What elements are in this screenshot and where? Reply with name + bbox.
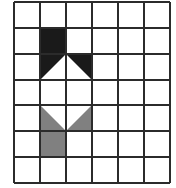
grid-figure (0, 0, 176, 188)
pattern-canvas (0, 0, 176, 188)
gray-square (40, 131, 66, 157)
black-square (40, 28, 66, 54)
